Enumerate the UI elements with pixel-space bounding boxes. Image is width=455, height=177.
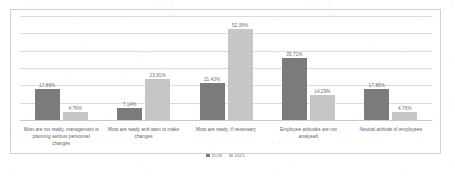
bar-group: 35,71%14,29% [267,16,349,120]
bar-wrap: 17,86% [364,16,389,120]
bar-wrap: 4,76% [392,16,417,120]
chart-legend: 20182021 [11,153,440,158]
legend-label: 2018 [212,153,222,158]
bar-value-label: 52,38% [232,23,248,28]
bar-2018-3[interactable] [282,58,307,120]
bar-wrap: 4,76% [63,16,88,120]
legend-item-2018[interactable]: 2018 [206,153,222,158]
bar-wrap: 14,29% [310,16,335,120]
bar-group: 7,14%23,81% [102,16,184,120]
bar-2021-1[interactable] [145,79,170,120]
bar-value-label: 4,76% [398,106,412,111]
bar-2018-4[interactable] [364,89,389,120]
bar-wrap: 7,14% [117,16,142,120]
category-label: Most are ready and want to make changes [102,126,184,147]
category-axis: Most are not ready, management is planni… [20,126,432,147]
category-label: Most are ready, if necessary [185,126,267,147]
bars-layer: 17,86%4,76%7,14%23,81%21,43%52,38%35,71%… [20,16,432,120]
bar-group: 21,43%52,38% [185,16,267,120]
bar-2018-0[interactable] [35,89,60,120]
chart-frame: 17,86%4,76%7,14%23,81%21,43%52,38%35,71%… [10,9,441,154]
bar-wrap: 21,43% [200,16,225,120]
legend-label: 2021 [235,153,245,158]
bar-value-label: 14,29% [314,89,330,94]
bar-value-label: 23,81% [150,73,166,78]
category-label: Most are not ready, management is planni… [20,126,102,147]
legend-swatch-icon [206,154,210,158]
bar-group: 17,86%4,76% [20,16,102,120]
bar-2021-3[interactable] [310,95,335,120]
bar-2018-1[interactable] [117,108,142,120]
bar-value-label: 35,71% [286,52,302,57]
bar-2018-2[interactable] [200,83,225,120]
bar-value-label: 7,14% [123,102,137,107]
category-label: Neutral attitude of employees [350,126,432,147]
legend-item-2021[interactable]: 2021 [229,153,245,158]
bar-wrap: 52,38% [228,16,253,120]
legend-swatch-icon [229,154,233,158]
bar-2021-4[interactable] [392,112,417,120]
bar-group: 17,86%4,76% [350,16,432,120]
bar-value-label: 17,86% [369,83,385,88]
bar-2021-0[interactable] [63,112,88,120]
bar-wrap: 35,71% [282,16,307,120]
bar-wrap: 23,81% [145,16,170,120]
axis-baseline [20,120,432,121]
bar-wrap: 17,86% [35,16,60,120]
plot-area: 17,86%4,76%7,14%23,81%21,43%52,38%35,71%… [20,16,432,120]
bar-value-label: 4,76% [68,106,82,111]
bar-value-label: 17,86% [39,83,55,88]
category-label: Employee attitudes are not analysed [267,126,349,147]
bar-value-label: 21,43% [204,77,220,82]
bar-2021-2[interactable] [228,29,253,120]
